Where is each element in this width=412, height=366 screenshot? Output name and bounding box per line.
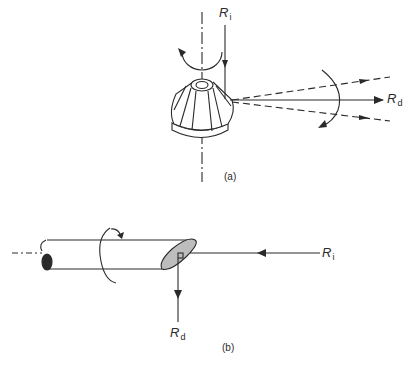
label-rd-b: Rd bbox=[170, 325, 185, 340]
label-ri-a: Ri bbox=[219, 5, 231, 20]
rotation-arrow-rd bbox=[322, 70, 340, 126]
label-rd-b-subscript: d bbox=[180, 332, 185, 342]
panel-b-diagram bbox=[12, 228, 320, 322]
label-ri-a-symbol: R bbox=[219, 5, 228, 20]
label-rd-a: Rd bbox=[387, 91, 402, 106]
diagram-svg bbox=[0, 0, 412, 366]
caption-b: (b) bbox=[222, 342, 234, 353]
label-rd-a-symbol: R bbox=[387, 91, 396, 106]
cylinder-end-face bbox=[161, 239, 196, 269]
label-ri-b: Ri bbox=[322, 245, 334, 260]
label-rd-b-symbol: R bbox=[170, 325, 179, 340]
label-ri-b-symbol: R bbox=[322, 245, 331, 260]
conical-cutter bbox=[171, 79, 233, 138]
figure-canvas: Ri Rd (a) Ri Rd (b) bbox=[0, 0, 412, 366]
caption-a: (a) bbox=[224, 171, 236, 182]
panel-a-diagram bbox=[171, 12, 390, 182]
label-rd-a-subscript: d bbox=[397, 98, 402, 108]
cylinder bbox=[41, 239, 197, 270]
rotation-arrow-b bbox=[100, 228, 116, 283]
